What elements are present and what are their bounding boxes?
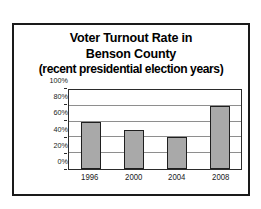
bar-series (69, 90, 241, 169)
bar-1996 (81, 122, 101, 169)
bar-2004 (167, 137, 187, 169)
y-axis-tick-mark (64, 88, 67, 89)
chart-title-line-2: Benson County (22, 46, 240, 62)
bar-slot (198, 90, 241, 169)
chart-title-line-1: Voter Turnout Rate in (22, 30, 240, 46)
x-axis-tick-label: 2004 (156, 173, 197, 182)
x-axis-tick-label: 1996 (69, 173, 110, 182)
x-axis-tick-label: 2000 (113, 173, 154, 182)
chart-title: Voter Turnout Rate in Benson County (rec… (22, 30, 240, 77)
y-axis-tick-mark (64, 120, 67, 121)
y-axis-tick-mark (64, 137, 67, 138)
bar-slot (69, 90, 112, 169)
y-axis-tick-label: 100% (38, 76, 68, 85)
bar-2000 (124, 130, 144, 170)
y-axis-tick-mark (64, 153, 67, 154)
bar-slot (112, 90, 155, 169)
bar-2008 (210, 106, 230, 169)
y-axis-tick-mark (64, 104, 67, 105)
bar-slot (155, 90, 198, 169)
chart-title-line-3: (recent presidential election years) (22, 61, 240, 77)
y-axis-labels: 0%20%40%60%80%100% (28, 89, 68, 170)
x-axis-tick-label: 2008 (200, 173, 241, 182)
y-axis-tick-mark (64, 169, 67, 170)
x-axis-labels: 1996200020042008 (68, 173, 242, 182)
plot-area (68, 89, 242, 170)
chart-frame: Voter Turnout Rate in Benson County (rec… (12, 23, 250, 196)
